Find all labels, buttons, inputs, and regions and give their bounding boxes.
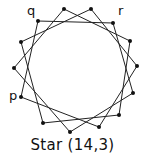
vertex-dot: [41, 121, 45, 125]
vertex-label-q: q: [27, 4, 35, 17]
vertex-label-p: p: [9, 89, 17, 102]
vertex-dot: [68, 130, 72, 134]
vertex-dot: [19, 40, 23, 44]
star-polygon-diagram: [0, 0, 145, 158]
vertex-dot: [128, 39, 132, 43]
vertex-dot: [12, 66, 16, 70]
vertex-dots: [12, 7, 139, 134]
diagram-caption: Star (14,3): [0, 136, 145, 154]
star-edge: [99, 66, 137, 127]
vertex-dot: [89, 7, 93, 11]
vertex-dot: [97, 125, 101, 129]
star-edge: [70, 93, 133, 132]
vertex-dot: [135, 64, 139, 68]
vertex-label-r: r: [118, 4, 123, 17]
vertex-dot: [117, 113, 121, 117]
star-edge: [14, 9, 64, 68]
vertex-dot: [111, 21, 115, 25]
vertex-dot: [36, 19, 40, 23]
vertex-dot: [62, 7, 66, 11]
star-edge: [21, 97, 99, 127]
star-edge: [91, 9, 137, 66]
star-edge: [43, 115, 119, 123]
vertex-dot: [19, 95, 23, 99]
vertex-dot: [131, 91, 135, 95]
